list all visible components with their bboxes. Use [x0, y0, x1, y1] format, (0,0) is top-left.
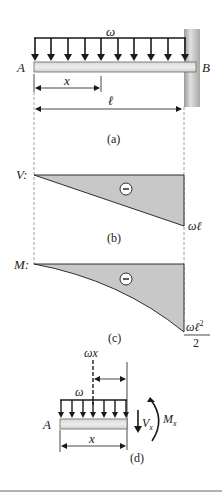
shear-arrow-icon: [134, 410, 142, 433]
shear-axis-label: V:: [16, 168, 27, 181]
beam-segment: [60, 419, 127, 429]
shear-diagram: [34, 175, 184, 226]
segment-load-label: ω: [75, 386, 83, 398]
segment-dim-x-label: x: [89, 432, 95, 445]
moment-diagram: [34, 264, 210, 335]
dim-length-label: ℓ: [108, 94, 113, 107]
end-label-a: A: [17, 61, 25, 74]
dim-x-label: x: [64, 74, 70, 87]
resultant-label: ωx: [84, 347, 98, 359]
moment-end-value: ωℓ2: [186, 320, 203, 333]
moment-label: Mx: [163, 413, 177, 428]
moment-end-value-den: 2: [193, 337, 199, 349]
caption-d: (d): [130, 452, 144, 464]
panel-d: [58, 360, 159, 452]
shear-force-label: Vx: [142, 417, 153, 432]
beam: [34, 62, 196, 72]
moment-axis-label: M:: [14, 258, 29, 271]
load-label: ω: [106, 25, 115, 38]
diagram-canvas: [0, 0, 222, 493]
end-label-b: B: [202, 61, 210, 74]
caption-c: (c): [108, 332, 121, 344]
caption-a: (a): [107, 133, 120, 145]
shear-end-value: ωℓ: [188, 220, 201, 232]
distributed-load: [31, 38, 189, 61]
segment-end-label-a: A: [43, 418, 51, 431]
panel-a: [31, 29, 200, 109]
caption-b: (b): [107, 232, 121, 244]
